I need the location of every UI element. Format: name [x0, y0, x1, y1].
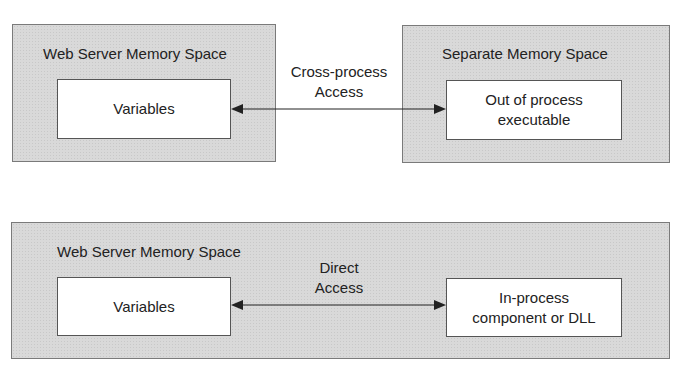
- direct-access-arrow: [231, 300, 446, 310]
- connector-arrows: [0, 0, 679, 365]
- cross-process-arrow: [231, 104, 446, 114]
